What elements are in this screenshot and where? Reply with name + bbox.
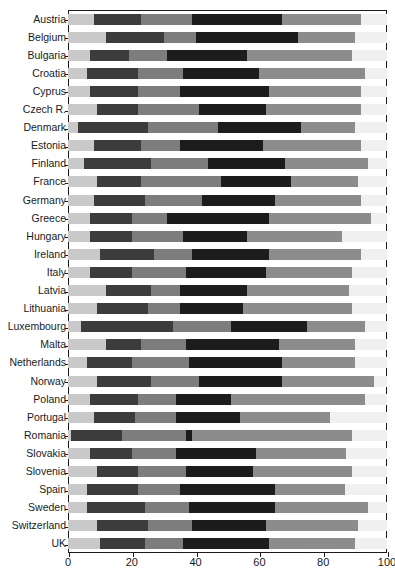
bar-segment-3 — [145, 195, 202, 206]
bar-segment-4 — [196, 32, 298, 43]
bar-segment-3 — [145, 502, 190, 513]
stacked-bar — [68, 32, 387, 43]
bar-segment-1 — [68, 520, 97, 531]
bar-segment-5 — [253, 466, 352, 477]
bar-remainder — [365, 394, 387, 405]
bar-segment-4 — [167, 50, 247, 61]
bar-segment-3 — [132, 357, 189, 368]
bar-segment-5 — [192, 430, 352, 441]
bar-segment-5 — [247, 231, 343, 242]
bar-segment-2 — [71, 430, 122, 441]
bar-segment-5 — [285, 158, 368, 169]
bar-segment-5 — [247, 285, 349, 296]
bar-segment-2 — [97, 466, 138, 477]
bar-segment-1 — [68, 412, 94, 423]
bar-segment-2 — [94, 195, 145, 206]
bar-remainder — [346, 448, 387, 459]
bar-segment-2 — [90, 231, 131, 242]
bar-segment-5 — [282, 357, 355, 368]
bar-segment-2 — [81, 321, 174, 332]
bar-segment-4 — [221, 176, 291, 187]
bar-segment-4 — [180, 86, 269, 97]
bar-row — [68, 394, 387, 405]
bar-segment-5 — [275, 502, 368, 513]
bar-segment-5 — [269, 249, 362, 260]
bar-segment-1 — [68, 213, 90, 224]
bar-remainder — [352, 466, 387, 477]
y-axis-label: Greece — [0, 213, 66, 224]
bar-remainder — [365, 321, 387, 332]
bar-remainder — [352, 430, 387, 441]
bar-segment-1 — [68, 357, 87, 368]
bar-segment-2 — [87, 502, 144, 513]
bar-remainder — [345, 484, 386, 495]
bar-segment-3 — [132, 213, 167, 224]
bar-segment-5 — [301, 122, 355, 133]
bar-segment-1 — [68, 140, 94, 151]
bar-segment-2 — [94, 140, 142, 151]
bar-segment-2 — [97, 303, 148, 314]
stacked-bar — [68, 231, 387, 242]
bar-segment-5 — [266, 520, 359, 531]
stacked-bar — [68, 195, 387, 206]
bar-segment-2 — [90, 86, 138, 97]
bar-segment-2 — [106, 285, 151, 296]
bar-segment-5 — [243, 303, 351, 314]
bar-remainder — [368, 502, 387, 513]
bar-segment-3 — [148, 303, 180, 314]
bar-segment-4 — [218, 122, 301, 133]
bar-remainder — [361, 14, 387, 25]
bar-segment-2 — [106, 32, 163, 43]
y-axis-label: Estonia — [0, 140, 66, 151]
bar-row — [68, 303, 387, 314]
bar-segment-3 — [132, 267, 186, 278]
y-axis-labels: AustriaBelgiumBulgariaCroatiaCyprusCzech… — [0, 10, 66, 553]
y-axis-label: Malta — [0, 339, 66, 350]
x-axis-label: 40 — [189, 556, 201, 568]
stacked-bar — [68, 412, 387, 423]
bar-segment-5 — [282, 14, 362, 25]
bar-row — [68, 502, 387, 513]
bar-segment-4 — [180, 484, 276, 495]
stacked-bar — [68, 249, 387, 260]
bar-row — [68, 376, 387, 387]
bar-segment-2 — [90, 394, 138, 405]
bar-segment-3 — [138, 68, 183, 79]
bar-segment-3 — [154, 249, 192, 260]
bar-segment-2 — [97, 520, 148, 531]
bar-segment-1 — [68, 394, 90, 405]
y-axis-label: Italy — [0, 267, 66, 278]
y-axis-label: Switzerland — [0, 520, 66, 531]
x-axis-label: 0 — [65, 556, 71, 568]
bar-segment-3 — [151, 376, 199, 387]
stacked-bar — [68, 484, 387, 495]
bar-segment-2 — [87, 357, 132, 368]
y-axis-label: Denmark — [0, 122, 66, 133]
stacked-bar — [68, 430, 387, 441]
bar-segment-5 — [266, 267, 352, 278]
bar-segment-2 — [84, 158, 151, 169]
bar-remainder — [355, 122, 387, 133]
bar-segment-4 — [186, 267, 266, 278]
bar-row — [68, 520, 387, 531]
bar-segment-1 — [68, 321, 81, 332]
stacked-bar — [68, 357, 387, 368]
bar-row — [68, 158, 387, 169]
bar-segment-5 — [231, 394, 365, 405]
stacked-bar — [68, 122, 387, 133]
bar-segment-4 — [186, 466, 253, 477]
bar-row — [68, 86, 387, 97]
y-axis-label: Portugal — [0, 412, 66, 423]
bar-segment-5 — [291, 176, 358, 187]
y-axis-label: Croatia — [0, 68, 66, 79]
y-axis-label: Finland — [0, 158, 66, 169]
bar-remainder — [352, 303, 387, 314]
bar-segment-4 — [176, 394, 230, 405]
bar-row — [68, 538, 387, 549]
y-axis-label: Sweden — [0, 502, 66, 513]
bar-segment-3 — [138, 86, 179, 97]
bar-segment-4 — [167, 213, 269, 224]
y-axis-label: Netherlands — [0, 357, 66, 368]
bar-segment-3 — [138, 394, 176, 405]
stacked-bar — [68, 176, 387, 187]
